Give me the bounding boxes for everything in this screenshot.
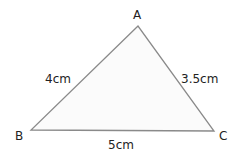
triangle-diagram: A B C 4cm 3.5cm 5cm <box>0 0 240 158</box>
vertex-label-c: C <box>219 129 227 143</box>
side-label-ab: 4cm <box>45 72 71 86</box>
vertex-label-a: A <box>133 8 142 22</box>
side-label-ac: 3.5cm <box>181 72 218 86</box>
side-label-bc: 5cm <box>108 138 134 152</box>
vertex-label-b: B <box>15 129 23 143</box>
